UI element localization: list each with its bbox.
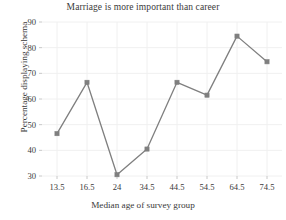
x-tick-label: 16.5 bbox=[79, 182, 94, 192]
data-point-marker bbox=[205, 93, 209, 97]
data-point-marker bbox=[235, 34, 239, 38]
data-point-marker bbox=[175, 80, 179, 84]
x-tick-label: 34.5 bbox=[139, 182, 154, 192]
y-tick-label: 40 bbox=[27, 145, 36, 155]
data-point-marker bbox=[85, 80, 89, 84]
y-tick-label: 90 bbox=[27, 17, 36, 27]
x-tick-label: 24 bbox=[113, 182, 122, 192]
x-tick-label: 44.5 bbox=[169, 182, 184, 192]
y-tick-label: 60 bbox=[27, 94, 36, 104]
y-tick-label: 30 bbox=[27, 171, 36, 181]
y-tick-label: 70 bbox=[27, 68, 36, 78]
y-tick-label: 80 bbox=[27, 43, 36, 53]
x-tick-label: 13.5 bbox=[49, 182, 64, 192]
x-tick-label: 74.5 bbox=[259, 182, 274, 192]
x-tick-label: 64.5 bbox=[229, 182, 244, 192]
chart-figure: Marriage is more important than career P… bbox=[0, 0, 286, 220]
x-axis-ticks: 13.516.52434.544.554.564.574.5 bbox=[49, 176, 274, 192]
x-tick-label: 54.5 bbox=[199, 182, 214, 192]
data-point-marker bbox=[55, 132, 59, 136]
data-point-marker bbox=[115, 173, 119, 177]
data-point-marker bbox=[145, 147, 149, 151]
y-tick-label: 50 bbox=[27, 120, 36, 130]
y-axis-ticks: 30405060708090 bbox=[27, 17, 42, 181]
data-point-marker bbox=[265, 60, 269, 64]
series-line bbox=[57, 36, 267, 175]
plot-area: 30405060708090 13.516.52434.544.554.564.… bbox=[0, 0, 286, 220]
